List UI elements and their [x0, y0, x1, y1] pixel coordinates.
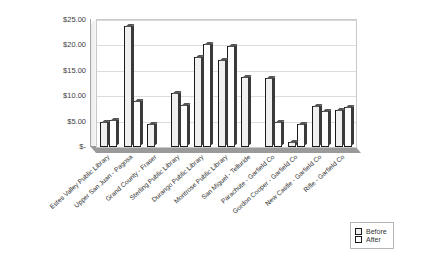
y-axis: $25.00$20.00$15.00$10.00$5.00$-	[30, 0, 86, 278]
bar-after	[203, 44, 211, 147]
bar-group	[238, 20, 262, 147]
bar-after	[274, 122, 282, 147]
bar-before	[312, 106, 320, 147]
bar-group	[215, 20, 239, 147]
bar-group	[191, 20, 215, 147]
bar-after	[344, 107, 352, 147]
bar-before	[288, 142, 296, 147]
bar-before	[194, 57, 202, 147]
bar-before	[171, 93, 179, 147]
bar-group	[332, 20, 356, 147]
x-axis-category-label: Rifle - Garfield Co	[302, 153, 346, 194]
y-axis-tick-label: $15.00	[34, 67, 86, 75]
bar-before	[335, 110, 343, 147]
bar-group	[309, 20, 333, 147]
bar-group	[168, 20, 192, 147]
bar-chart: $25.00$20.00$15.00$10.00$5.00$- Estes Va…	[0, 0, 424, 278]
legend-item-after[interactable]: After	[355, 236, 387, 243]
bar-before	[265, 78, 273, 147]
legend-swatch-after-icon	[355, 236, 362, 243]
y-axis-tick-label: $20.00	[34, 41, 86, 49]
bar-group	[144, 20, 168, 147]
bar-group	[121, 20, 145, 147]
bar-group	[262, 20, 286, 147]
bar-before	[147, 124, 155, 147]
bar-after	[321, 111, 329, 147]
bar-after	[109, 120, 117, 147]
chart-legend: Before After	[350, 222, 394, 249]
y-axis-line	[90, 19, 91, 147]
bar-group	[97, 20, 121, 147]
bar-before	[124, 26, 132, 147]
bar-before	[218, 60, 226, 147]
bar-before	[241, 77, 249, 147]
legend-swatch-before-icon	[355, 228, 362, 235]
bar-before	[100, 122, 108, 147]
y-axis-tick-label: $5.00	[34, 118, 86, 126]
legend-item-before[interactable]: Before	[355, 228, 387, 235]
legend-label-after: After	[366, 236, 381, 243]
bar-group	[285, 20, 309, 147]
bar-series-container	[97, 20, 356, 147]
legend-label-before: Before	[366, 228, 387, 235]
y-axis-tick-label: $10.00	[34, 92, 86, 100]
y-axis-tick-label: $25.00	[34, 16, 86, 24]
bar-after	[297, 124, 305, 147]
